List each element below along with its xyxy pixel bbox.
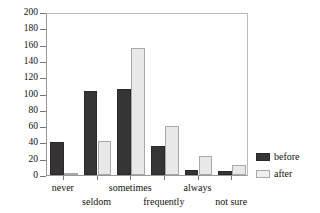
legend: before after: [256, 148, 318, 182]
y-axis-tick-label: 60: [2, 122, 38, 131]
bar-group: [182, 14, 216, 175]
bar-group: [47, 14, 81, 175]
bar-group: [215, 14, 249, 175]
legend-item-before: before: [256, 148, 318, 165]
y-axis-tick-label: 160: [2, 41, 38, 50]
bar-before-not-sure: [218, 171, 232, 175]
y-axis-tick-label: 0: [2, 171, 38, 180]
bar-before-always: [185, 170, 199, 175]
y-axis-tick: [40, 176, 46, 177]
bar-before-never: [50, 142, 64, 175]
bar-after-never: [64, 173, 78, 175]
bar-group: [81, 14, 115, 175]
x-axis-label-seldom: seldom: [62, 196, 132, 207]
x-axis-tick: [198, 176, 199, 180]
x-axis-tick: [97, 176, 98, 180]
legend-item-after: after: [256, 165, 318, 182]
legend-swatch-after-icon: [256, 170, 270, 178]
legend-swatch-before-icon: [256, 153, 270, 161]
x-axis-tick: [63, 176, 64, 180]
x-axis-label-frequently: frequently: [129, 196, 199, 207]
y-axis-tick-label: 80: [2, 106, 38, 115]
x-axis-label-not-sure: not sure: [196, 196, 266, 207]
bar-before-frequently: [151, 146, 165, 175]
x-axis-tick: [231, 176, 232, 180]
x-axis-tick: [164, 176, 165, 180]
bar-after-sometimes: [131, 48, 145, 175]
y-axis-tick-label: 20: [2, 155, 38, 164]
x-axis-label-sometimes: sometimes: [95, 182, 165, 193]
legend-label-before: before: [274, 151, 300, 162]
y-axis-tick-label: 120: [2, 73, 38, 82]
bar-group: [114, 14, 148, 175]
plot-area: [46, 13, 248, 176]
y-axis-tick-label: 40: [2, 138, 38, 147]
y-axis-tick-label: 180: [2, 24, 38, 33]
bar-before-sometimes: [117, 89, 131, 175]
y-axis-tick-label: 140: [2, 57, 38, 66]
x-axis-label-never: never: [28, 182, 98, 193]
y-axis-tick-label: 100: [2, 90, 38, 99]
legend-label-after: after: [274, 168, 292, 179]
x-axis-label-always: always: [163, 182, 233, 193]
y-axis-tick-label: 200: [2, 8, 38, 17]
bar-series-container: [47, 14, 247, 175]
bar-after-always: [199, 156, 213, 175]
bar-after-not-sure: [232, 165, 246, 175]
bar-group: [148, 14, 182, 175]
x-axis-tick: [130, 176, 131, 180]
bar-after-frequently: [165, 126, 179, 175]
bar-chart-figure: Number of people 02040608010012014016018…: [0, 0, 320, 213]
bar-before-seldom: [84, 91, 98, 175]
bar-after-seldom: [98, 141, 112, 175]
